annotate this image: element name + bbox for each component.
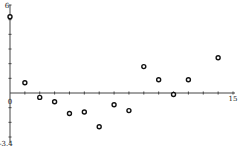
data-point bbox=[127, 109, 131, 113]
axes bbox=[9, 5, 236, 143]
data-point bbox=[172, 92, 176, 96]
y-min-label: -3.4 bbox=[0, 140, 13, 147]
data-point bbox=[53, 100, 57, 104]
data-point bbox=[67, 112, 71, 116]
data-point bbox=[186, 78, 190, 82]
x-max-label: 15 bbox=[229, 95, 238, 103]
data-point bbox=[157, 78, 161, 82]
scatter-plot: 6 0 15 -3.4 bbox=[0, 0, 247, 147]
data-point bbox=[216, 56, 220, 60]
x-origin-label: 0 bbox=[8, 98, 12, 106]
data-point bbox=[142, 65, 146, 69]
y-max-label: 6 bbox=[5, 2, 10, 10]
data-points bbox=[8, 15, 220, 129]
data-point bbox=[82, 110, 86, 114]
data-point bbox=[97, 125, 101, 129]
data-point bbox=[23, 81, 27, 85]
data-point bbox=[8, 15, 12, 19]
data-point bbox=[112, 103, 116, 107]
data-point bbox=[38, 95, 42, 99]
